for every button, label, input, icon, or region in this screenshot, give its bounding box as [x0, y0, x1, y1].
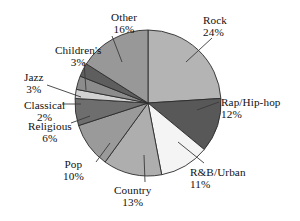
pie-label-percent-r-b-urban: 11% [190, 178, 246, 190]
pie-label-name-pop: Pop [63, 158, 84, 170]
pie-label-rap-hip-hop: Rap/Hip-hop12% [221, 96, 281, 120]
pie-label-percent-classical: 2% [24, 111, 65, 123]
pie-label-name-other: Other [111, 11, 137, 23]
pie-label-percent-country: 13% [114, 196, 151, 208]
pie-label-r-b-urban: R&B/Urban11% [190, 166, 246, 190]
pie-label-other: Other16% [111, 11, 137, 35]
pie-label-pop: Pop10% [63, 158, 84, 182]
pie-label-classical: Classical2% [24, 99, 65, 123]
pie-label-name-children-s: Children's [55, 44, 102, 56]
pie-label-name-classical: Classical [24, 99, 65, 111]
pie-label-country: Country13% [114, 184, 151, 208]
pie-label-percent-religious: 6% [28, 132, 72, 144]
pie-label-percent-children-s: 3% [55, 56, 102, 68]
pie-label-children-s: Children's3% [55, 44, 102, 68]
pie-label-name-country: Country [114, 184, 151, 196]
pie-label-percent-rap-hip-hop: 12% [221, 108, 281, 120]
pie-chart-figure: Rock24%Rap/Hip-hop12%R&B/Urban11%Country… [0, 0, 300, 221]
pie-slice-rock[interactable] [148, 30, 221, 103]
pie-label-rock: Rock24% [203, 14, 227, 38]
pie-label-name-r-b-urban: R&B/Urban [190, 166, 246, 178]
pie-label-percent-rock: 24% [203, 26, 227, 38]
pie-label-religious: Religious6% [28, 120, 72, 144]
pie-label-percent-pop: 10% [63, 170, 84, 182]
pie-label-percent-other: 16% [111, 23, 137, 35]
pie-label-name-rap-hip-hop: Rap/Hip-hop [221, 96, 281, 108]
pie-label-jazz: Jazz3% [24, 71, 44, 95]
pie-label-name-jazz: Jazz [24, 71, 44, 83]
pie-label-percent-jazz: 3% [24, 83, 44, 95]
pie-label-name-rock: Rock [203, 14, 227, 26]
